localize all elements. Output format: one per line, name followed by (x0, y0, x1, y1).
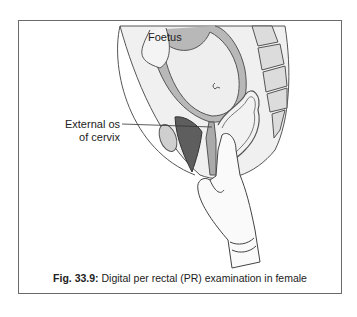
label-external-os-line1: External os (50, 118, 120, 131)
figure-caption-text: Digital per rectal (PR) examination in f… (102, 272, 307, 284)
label-external-os-line2: of cervix (50, 131, 120, 144)
anatomy-illustration (0, 0, 357, 317)
figure-number: Fig. 33.9: (53, 272, 99, 284)
label-foetus: Foetus (148, 31, 182, 44)
figure-caption: Fig. 33.9: Digital per rectal (PR) exami… (18, 272, 342, 284)
label-external-os: External os of cervix (50, 118, 120, 144)
